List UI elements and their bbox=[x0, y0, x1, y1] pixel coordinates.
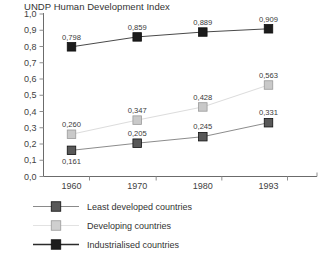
y-axis-tick-label: 0,0 bbox=[24, 172, 37, 182]
x-axis-tick-label: 1980 bbox=[193, 181, 213, 191]
legend-item-label[interactable]: Developing countries bbox=[87, 221, 172, 231]
series-marker bbox=[133, 139, 142, 148]
series-line bbox=[72, 123, 269, 151]
y-axis-tick-label: 0,1 bbox=[24, 155, 37, 165]
data-point-label: 0,331 bbox=[259, 108, 278, 117]
x-axis-tick-label: 1960 bbox=[61, 181, 81, 191]
series-marker bbox=[264, 25, 273, 33]
data-point-label: 0,161 bbox=[62, 157, 81, 166]
data-point-label: 0,859 bbox=[128, 23, 147, 32]
y-axis-tick-label: 0,2 bbox=[24, 139, 37, 149]
series-line bbox=[72, 29, 269, 47]
data-point-label: 0,563 bbox=[259, 71, 278, 80]
chart-container: UNDP Human Development Index 0,00,10,20,… bbox=[0, 0, 323, 257]
y-axis-tick-label: 0,6 bbox=[24, 74, 37, 84]
data-point-label: 0,347 bbox=[128, 106, 147, 115]
y-axis: 0,00,10,20,30,40,50,60,70,80,91,0 bbox=[24, 9, 44, 182]
series-marker bbox=[199, 132, 208, 141]
series-marker bbox=[199, 28, 208, 36]
series-marker bbox=[67, 130, 76, 139]
series-marker bbox=[264, 118, 273, 127]
undp-hdi-line-chart: 0,00,10,20,30,40,50,60,70,80,91,0 196019… bbox=[0, 0, 323, 257]
data-point-label: 0,909 bbox=[259, 15, 278, 24]
series-line bbox=[72, 85, 269, 134]
x-axis: 1960197019801993 bbox=[44, 173, 318, 192]
x-axis-tick-label: 1970 bbox=[127, 181, 147, 191]
data-point-label: 0,260 bbox=[62, 120, 81, 129]
series-marker bbox=[264, 81, 273, 90]
data-point-label: 0,428 bbox=[193, 93, 212, 102]
series-marker bbox=[199, 103, 208, 112]
series-marker bbox=[67, 43, 76, 52]
y-axis-tick-label: 0,8 bbox=[24, 42, 37, 52]
y-axis-tick-label: 0,7 bbox=[24, 58, 37, 68]
legend-swatch bbox=[51, 221, 61, 231]
y-axis-tick-label: 0,9 bbox=[24, 25, 37, 35]
y-axis-tick-label: 0,4 bbox=[24, 107, 37, 117]
chart-legend: Least developed countriesDeveloping coun… bbox=[33, 202, 193, 250]
legend-swatch bbox=[51, 202, 61, 212]
x-axis-tick-label: 1993 bbox=[258, 181, 278, 191]
legend-swatch bbox=[51, 240, 61, 250]
legend-item-label[interactable]: Least developed countries bbox=[87, 202, 193, 212]
data-point-labels-layer: 0,1610,2050,2450,3310,2600,3470,4280,563… bbox=[62, 15, 278, 166]
data-point-label: 0,798 bbox=[62, 33, 81, 42]
series-marker bbox=[67, 146, 76, 155]
data-point-label: 0,205 bbox=[128, 129, 147, 138]
series-marker bbox=[133, 116, 142, 125]
y-axis-tick-label: 1,0 bbox=[24, 9, 37, 19]
data-point-label: 0,245 bbox=[193, 122, 212, 131]
y-axis-tick-label: 0,3 bbox=[24, 123, 37, 133]
legend-item-label[interactable]: Industrialised countries bbox=[87, 240, 180, 250]
chart-series-layer bbox=[67, 25, 273, 155]
series-marker bbox=[133, 33, 142, 42]
data-point-label: 0,889 bbox=[193, 18, 212, 27]
y-axis-tick-label: 0,5 bbox=[24, 90, 37, 100]
